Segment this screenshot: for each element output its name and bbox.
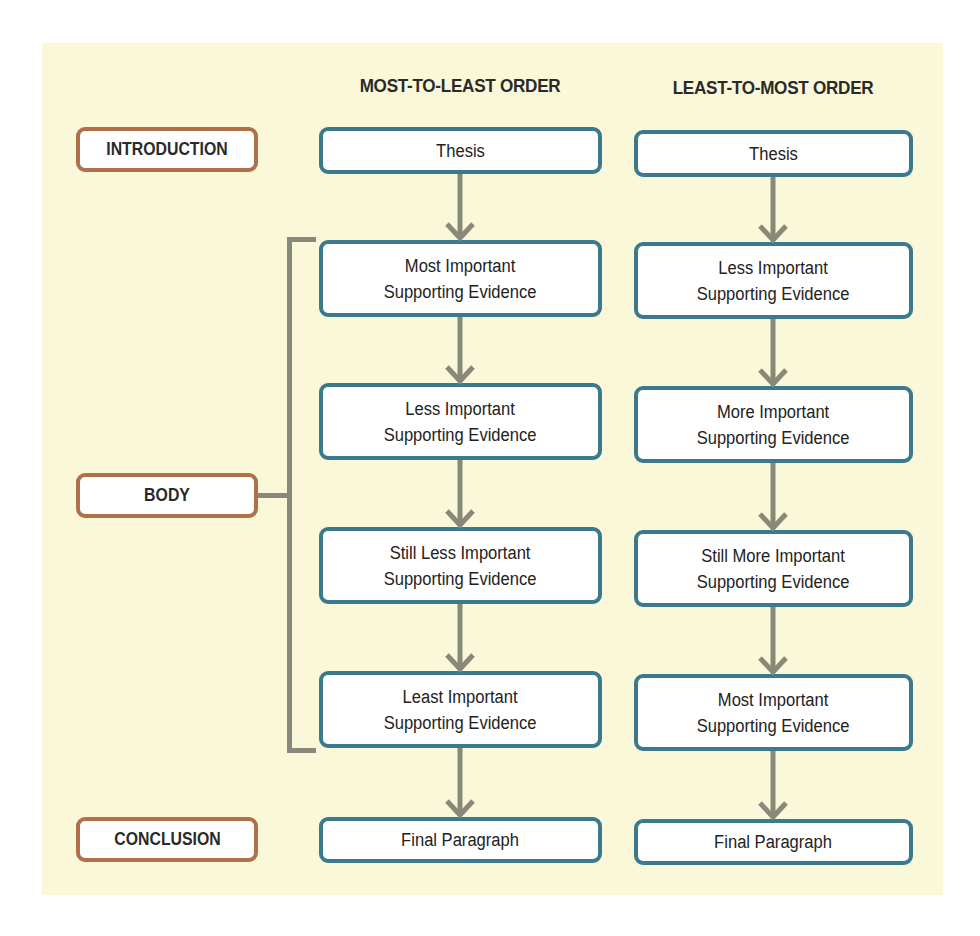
down-arrow-icon bbox=[447, 460, 473, 525]
down-arrow-icon bbox=[447, 174, 473, 238]
down-arrow-icon bbox=[760, 319, 786, 384]
flow-arrows bbox=[0, 0, 980, 936]
down-arrow-icon bbox=[447, 748, 473, 815]
down-arrow-icon bbox=[760, 607, 786, 672]
down-arrow-icon bbox=[760, 751, 786, 817]
down-arrow-icon bbox=[447, 317, 473, 381]
down-arrow-icon bbox=[760, 177, 786, 240]
down-arrow-icon bbox=[447, 604, 473, 669]
down-arrow-icon bbox=[760, 463, 786, 528]
